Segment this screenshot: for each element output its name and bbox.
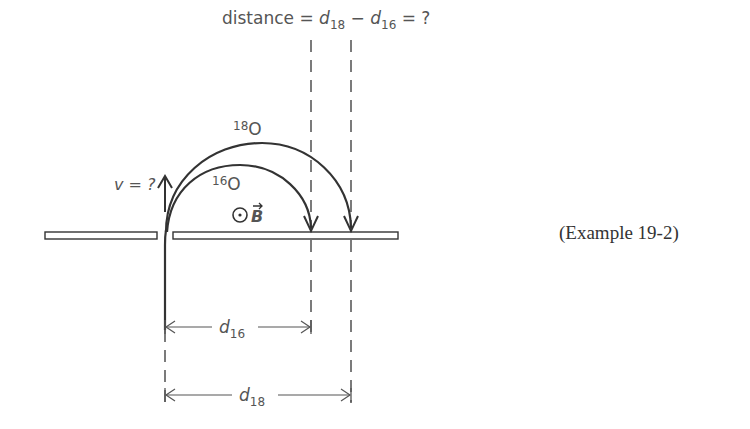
magnetic-field-out-icon [233, 208, 247, 222]
distance-equation: distance = d18 − d16 = ? [222, 8, 430, 32]
velocity-label: v = ? [114, 175, 156, 194]
label-d18: d18 [239, 385, 265, 409]
left-plate [45, 232, 157, 239]
field-label: B [251, 207, 263, 226]
example-caption: (Example 19-2) [559, 222, 679, 244]
label-18O: 18O [233, 119, 262, 139]
label-16O: 16O [212, 174, 241, 194]
label-d16: d16 [219, 317, 245, 341]
entry-path [165, 230, 166, 330]
right-plate [173, 232, 398, 239]
mass-spectrometer-diagram: distance = d18 − d16 = ? v = ? 18O 16O B [0, 0, 750, 429]
